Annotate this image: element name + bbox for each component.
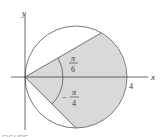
figure-caption: FIGURE	[2, 134, 29, 137]
angle-lower-den: 4	[72, 99, 76, 108]
y-axis-label: y	[21, 8, 26, 18]
x-axis-label: x	[150, 72, 155, 82]
x-tick-4: 4	[129, 82, 133, 91]
angle-lower-sign: −	[62, 93, 67, 102]
angle-upper-den: 6	[71, 65, 75, 74]
polar-diagram: y x 4 π 6 − π 4 FIGURE	[0, 0, 163, 137]
